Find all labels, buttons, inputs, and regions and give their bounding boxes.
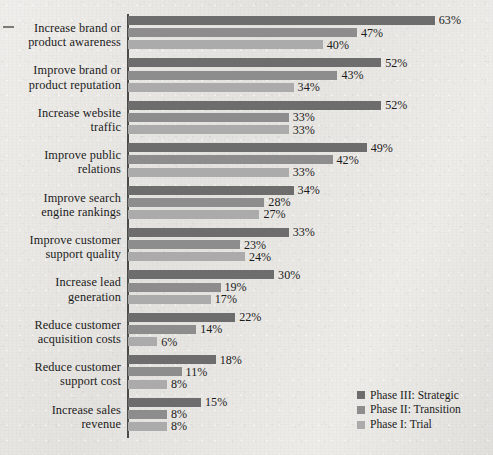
legend-swatch-p3 [357, 391, 365, 399]
category-label-line: relations [0, 162, 121, 176]
category-label-line: Increase sales [0, 403, 121, 417]
category-label: Increase leadgeneration [0, 275, 121, 303]
bar-value-label: 14% [200, 322, 222, 336]
category-label: Improve publicrelations [0, 148, 121, 176]
bar-p1[interactable] [128, 295, 211, 304]
bar-p1[interactable] [128, 83, 294, 92]
bar-p2[interactable] [128, 410, 167, 419]
bar-p2[interactable] [128, 283, 221, 292]
category-label-line: revenue [0, 417, 121, 431]
bar-p1[interactable] [128, 380, 167, 389]
category-label-line: Increase brand or [0, 21, 121, 35]
bar-p1[interactable] [128, 210, 259, 219]
bar-value-label: 63% [439, 13, 461, 27]
bar-p3[interactable] [128, 270, 274, 279]
legend-item[interactable]: Phase II: Transition [357, 403, 461, 417]
category-label-line: Improve brand or [0, 63, 121, 77]
bar-value-label: 33% [293, 123, 315, 137]
bar-value-label: 33% [293, 225, 315, 239]
category-label: Improve searchengine rankings [0, 191, 121, 219]
bar-p3[interactable] [128, 228, 289, 237]
bar-p3[interactable] [128, 313, 235, 322]
bar-p1[interactable] [128, 125, 289, 134]
bar-p2[interactable] [128, 198, 264, 207]
bar-p3[interactable] [128, 58, 381, 67]
bar-value-label: 33% [293, 165, 315, 179]
bar-p2[interactable] [128, 325, 196, 334]
legend-swatch-p1 [357, 421, 365, 429]
bar-p3[interactable] [128, 143, 367, 152]
category-label-line: Reduce customer [0, 318, 121, 332]
bar-value-label: 8% [171, 419, 187, 433]
bar-value-label: 52% [385, 56, 407, 70]
bar-value-label: 11% [186, 365, 208, 379]
bar-p3[interactable] [128, 16, 435, 25]
legend-label: Phase II: Transition [370, 403, 461, 416]
bar-value-label: 22% [239, 310, 261, 324]
bar-p2[interactable] [128, 71, 337, 80]
category-label-line: Increase lead [0, 275, 121, 289]
category-label: Increase websitetraffic [0, 106, 121, 134]
category-label-line: Improve public [0, 148, 121, 162]
bar-p2[interactable] [128, 240, 240, 249]
bar-value-label: 18% [220, 353, 242, 367]
bar-value-label: 42% [337, 153, 359, 167]
bar-value-label: 15% [205, 395, 227, 409]
bar-value-label: 6% [161, 335, 177, 349]
bar-value-label: 27% [263, 207, 285, 221]
bar-p2[interactable] [128, 367, 182, 376]
category-label: Reduce customersupport cost [0, 360, 121, 388]
bar-p2[interactable] [128, 113, 289, 122]
category-label-line: product awareness [0, 35, 121, 49]
bar-p1[interactable] [128, 422, 167, 431]
category-label-line: Improve search [0, 191, 121, 205]
category-label-line: traffic [0, 120, 121, 134]
category-label-line: engine rankings [0, 205, 121, 219]
bar-p3[interactable] [128, 355, 216, 364]
category-label: Increase brand orproduct awareness [0, 21, 121, 49]
chart-page: Increase brand orproduct awareness63%47%… [0, 0, 493, 455]
bar-p1[interactable] [128, 40, 323, 49]
bar-value-label: 52% [385, 98, 407, 112]
bar-p1[interactable] [128, 337, 157, 346]
bar-value-label: 17% [215, 292, 237, 306]
category-label-line: Improve customer [0, 233, 121, 247]
category-label: Increase salesrevenue [0, 403, 121, 431]
chart-legend: Phase III: StrategicPhase II: Transition… [357, 388, 461, 432]
category-label: Reduce customeracquisition costs [0, 318, 121, 346]
category-label-line: generation [0, 290, 121, 304]
category-label-line: Reduce customer [0, 360, 121, 374]
bar-p1[interactable] [128, 252, 245, 261]
bar-value-label: 8% [171, 377, 187, 391]
bar-p3[interactable] [128, 398, 201, 407]
bar-p3[interactable] [128, 186, 294, 195]
bar-value-label: 34% [298, 183, 320, 197]
legend-swatch-p2 [357, 406, 365, 414]
category-label-line: Increase website [0, 106, 121, 120]
legend-label: Phase I: Trial [370, 418, 432, 431]
bar-value-label: 40% [327, 38, 349, 52]
legend-item[interactable]: Phase I: Trial [357, 418, 461, 432]
category-label-line: product reputation [0, 78, 121, 92]
bar-value-label: 49% [371, 141, 393, 155]
legend-label: Phase III: Strategic [370, 389, 459, 402]
bar-value-label: 43% [341, 68, 363, 82]
category-label-line: support quality [0, 247, 121, 261]
bar-value-label: 30% [278, 268, 300, 282]
bar-p3[interactable] [128, 101, 381, 110]
category-label-line: acquisition costs [0, 332, 121, 346]
category-label-line: support cost [0, 374, 121, 388]
category-label: Improve customersupport quality [0, 233, 121, 261]
bar-p2[interactable] [128, 155, 333, 164]
bar-p2[interactable] [128, 28, 357, 37]
bar-value-label: 34% [298, 80, 320, 94]
bar-value-label: 24% [249, 250, 271, 264]
bar-value-label: 47% [361, 26, 383, 40]
bar-p1[interactable] [128, 168, 289, 177]
legend-item[interactable]: Phase III: Strategic [357, 388, 461, 402]
category-label: Improve brand orproduct reputation [0, 63, 121, 91]
